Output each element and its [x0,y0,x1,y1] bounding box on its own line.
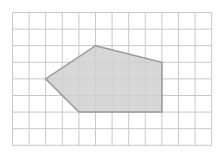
grid-canvas [0,0,223,157]
pentagon-shape [46,46,162,112]
diagram [0,0,223,157]
